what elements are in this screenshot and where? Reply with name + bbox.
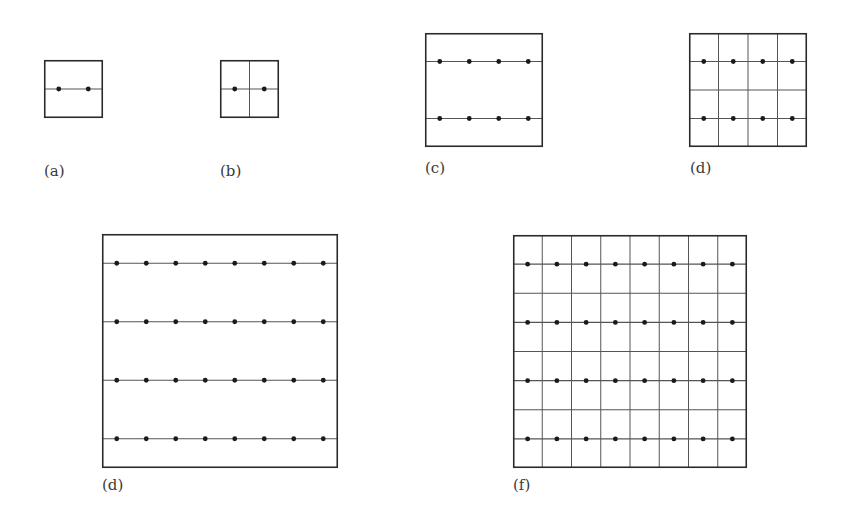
panel-a: (a): [44, 60, 103, 118]
node-dot: [526, 59, 531, 64]
node-dot: [232, 87, 237, 92]
panel-border: [103, 235, 338, 468]
node-dot: [203, 378, 208, 383]
node-dot: [642, 320, 647, 325]
node-dot: [437, 59, 442, 64]
node-dot: [144, 319, 149, 324]
node-dot: [554, 436, 559, 441]
node-dot: [496, 116, 501, 121]
panel-f: (f): [513, 235, 747, 468]
node-dot: [232, 378, 237, 383]
node-dot: [525, 378, 530, 383]
node-dot: [437, 116, 442, 121]
node-dot: [262, 319, 267, 324]
node-dot: [613, 320, 618, 325]
node-dot: [671, 320, 676, 325]
node-dot: [584, 378, 589, 383]
node-dot: [321, 436, 326, 441]
node-dot: [701, 320, 706, 325]
node-dot: [114, 378, 119, 383]
node-dot: [525, 436, 530, 441]
node-dot: [671, 436, 676, 441]
node-dot: [144, 436, 149, 441]
panel-c: (c): [425, 33, 543, 147]
node-dot: [262, 378, 267, 383]
panel-b: (b): [220, 60, 279, 118]
node-dot: [671, 262, 676, 267]
node-dot: [701, 378, 706, 383]
node-dot: [613, 436, 618, 441]
node-dot: [642, 262, 647, 267]
node-dot: [584, 436, 589, 441]
figure-canvas: (a) (b) (c) (d) (d) (f): [0, 0, 841, 513]
node-dot: [554, 320, 559, 325]
node-dot: [114, 436, 119, 441]
node-dot: [203, 436, 208, 441]
node-dot: [232, 436, 237, 441]
node-dot: [321, 261, 326, 266]
mesh-diagram-b: [220, 60, 279, 118]
node-dot: [731, 59, 736, 64]
node-dot: [203, 319, 208, 324]
node-dot: [525, 262, 530, 267]
node-dot: [671, 378, 676, 383]
node-dot: [701, 116, 706, 121]
node-dot: [114, 261, 119, 266]
node-dot: [760, 116, 765, 121]
node-dot: [232, 319, 237, 324]
node-dot: [554, 262, 559, 267]
panel-label-a: (a): [44, 164, 65, 179]
node-dot: [613, 262, 618, 267]
node-dot: [291, 261, 296, 266]
mesh-diagram-d-large: [102, 234, 338, 468]
node-dot: [173, 378, 178, 383]
node-dot: [262, 436, 267, 441]
node-dot: [56, 87, 61, 92]
node-dot: [760, 59, 765, 64]
node-dot: [701, 59, 706, 64]
node-dot: [584, 262, 589, 267]
panel-d-large: (d): [102, 234, 338, 468]
node-dot: [262, 261, 267, 266]
node-dot: [642, 436, 647, 441]
node-dot: [86, 87, 91, 92]
node-dot: [144, 261, 149, 266]
node-dot: [731, 116, 736, 121]
node-dot: [496, 59, 501, 64]
node-dot: [525, 320, 530, 325]
panel-d-small: (d): [689, 33, 807, 147]
node-dot: [730, 320, 735, 325]
node-dot: [173, 319, 178, 324]
panel-label-f: (f): [513, 478, 530, 493]
node-dot: [203, 261, 208, 266]
node-dot: [730, 262, 735, 267]
node-dot: [642, 378, 647, 383]
mesh-diagram-d-small: [689, 33, 807, 147]
node-dot: [701, 436, 706, 441]
panel-label-c: (c): [425, 161, 445, 176]
node-dot: [144, 378, 149, 383]
panel-label-d-large: (d): [102, 478, 123, 493]
node-dot: [730, 378, 735, 383]
node-dot: [262, 87, 267, 92]
node-dot: [173, 436, 178, 441]
node-dot: [291, 378, 296, 383]
node-dot: [173, 261, 178, 266]
node-dot: [790, 59, 795, 64]
panel-border: [426, 34, 543, 147]
node-dot: [584, 320, 589, 325]
node-dot: [291, 319, 296, 324]
node-dot: [701, 262, 706, 267]
node-dot: [554, 378, 559, 383]
node-dot: [321, 378, 326, 383]
panel-label-d-small: (d): [690, 161, 711, 176]
mesh-diagram-c: [425, 33, 543, 147]
node-dot: [232, 261, 237, 266]
mesh-diagram-f: [513, 235, 747, 468]
node-dot: [790, 116, 795, 121]
node-dot: [291, 436, 296, 441]
node-dot: [467, 59, 472, 64]
node-dot: [730, 436, 735, 441]
node-dot: [114, 319, 119, 324]
node-dot: [613, 378, 618, 383]
